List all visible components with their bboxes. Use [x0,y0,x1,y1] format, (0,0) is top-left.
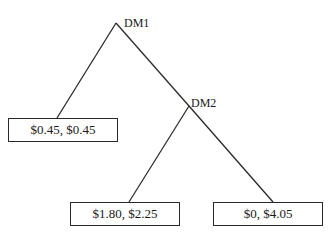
edge-dm2-to-bottom-right-payoff [189,106,273,202]
decision-node-dm2-label: DM2 [191,96,216,110]
edge-dm1-to-dm2 [116,23,189,106]
payoff-box-bottom-right: $0, $4.05 [213,202,323,226]
edge-dm1-to-left-payoff [57,23,116,118]
payoff-box-left: $0.45, $0.45 [8,118,118,142]
decision-node-dm1-label: DM1 [124,16,149,30]
payoff-bottom-left-text: $1.80, $2.25 [93,206,158,222]
payoff-box-bottom-left: $1.80, $2.25 [70,202,180,226]
edge-dm2-to-bottom-left-payoff [129,106,189,202]
payoff-bottom-right-text: $0, $4.05 [244,206,293,222]
payoff-left-text: $0.45, $0.45 [31,122,96,138]
